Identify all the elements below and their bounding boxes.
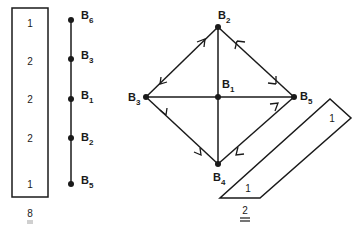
chain-label-b3: B3 <box>81 49 94 65</box>
label-b1: B1 <box>222 78 235 94</box>
node-b5 <box>291 94 297 100</box>
right-caption: 2 <box>242 205 248 216</box>
arrow-icon <box>194 148 201 155</box>
box-value-3: 2 <box>27 94 33 105</box>
arrow-icon <box>236 147 244 155</box>
label-b5: B5 <box>300 90 313 106</box>
node-b3 <box>143 94 149 100</box>
label-b3: B3 <box>128 91 141 107</box>
chain-node-b1 <box>68 96 74 102</box>
chain-label-b2: B2 <box>81 131 94 147</box>
edge-b3-b2 <box>146 27 218 97</box>
arrow-icon <box>270 103 278 111</box>
edge-b4-b3 <box>146 97 218 164</box>
parallelogram-value-bottom: 1 <box>245 183 251 194</box>
chain-node-b2 <box>68 135 74 141</box>
box-value-2: 2 <box>27 56 33 67</box>
node-b1 <box>215 94 221 100</box>
parallelogram-value-top: 1 <box>329 113 335 124</box>
chain-node-b3 <box>68 56 74 62</box>
box-value-5: 1 <box>27 179 33 190</box>
node-b2 <box>215 24 221 30</box>
chain-node-b6 <box>68 17 74 23</box>
box-value-4: 2 <box>27 133 33 144</box>
chain-label-b1: B1 <box>81 89 94 105</box>
left-panel: 1 2 2 2 1 B6 B3 B1 B2 B5 8 <box>12 8 94 223</box>
chain-label-b5: B5 <box>81 174 94 190</box>
right-panel: B2 B3 B1 B5 B4 1 1 2 <box>128 9 351 221</box>
box-value-1: 1 <box>27 18 33 29</box>
label-b2: B2 <box>218 9 231 25</box>
label-b4: B4 <box>213 171 226 187</box>
chain-label-b6: B6 <box>81 9 94 25</box>
chain-node-b5 <box>68 181 74 187</box>
edge-b5-b4 <box>218 97 294 164</box>
node-b4 <box>215 161 221 167</box>
diagram-canvas: 1 2 2 2 1 B6 B3 B1 B2 B5 8 <box>0 0 363 234</box>
left-caption: 8 <box>27 208 33 219</box>
